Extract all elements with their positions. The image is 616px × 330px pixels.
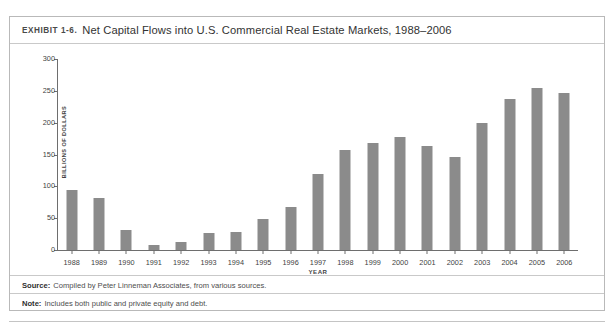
bar-group: 2006: [551, 59, 578, 250]
bar: [531, 88, 542, 250]
x-axis-tick-label: 1994: [228, 258, 244, 267]
y-axis-tick-label: 100: [43, 181, 55, 190]
x-axis-tick-label: 1996: [282, 258, 298, 267]
x-axis-tick-label: 2003: [474, 258, 490, 267]
bar: [121, 230, 132, 250]
exhibit-card: EXHIBIT 1-6. Net Capital Flows into U.S.…: [9, 16, 605, 311]
source-label: Source:: [22, 281, 50, 290]
x-axis-tick-label: 1997: [310, 258, 326, 267]
bar-group: 1999: [359, 59, 386, 250]
x-axis-tick-mark: [181, 250, 182, 254]
x-axis-tick-label: 1990: [118, 258, 134, 267]
x-axis-tick-label: 2000: [392, 258, 408, 267]
y-axis-tick-label: 0: [51, 245, 55, 254]
x-axis-tick-label: 1999: [365, 258, 381, 267]
y-axis-tick-label: 50: [47, 213, 55, 222]
bar: [230, 232, 241, 250]
bar-group: 1995: [250, 59, 277, 250]
bar-group: 2003: [469, 59, 496, 250]
bar: [422, 146, 433, 250]
bar: [395, 137, 406, 250]
bars-layer: 1988198919901991199219931994199519961997…: [58, 59, 578, 250]
bar-group: 2004: [496, 59, 523, 250]
x-axis-tick-label: 1995: [255, 258, 271, 267]
x-axis-tick-mark: [536, 250, 537, 254]
bar-group: 1989: [85, 59, 112, 250]
bar: [504, 99, 515, 250]
x-axis-tick-label: 1993: [200, 258, 216, 267]
bar-group: 2002: [441, 59, 468, 250]
x-axis-tick-label: 2004: [501, 258, 517, 267]
x-axis-tick-mark: [454, 250, 455, 254]
x-axis-tick-label: 2005: [529, 258, 545, 267]
y-axis-tick-label: 300: [43, 54, 55, 63]
y-axis-tick-label: 250: [43, 86, 55, 95]
bar-group: 1993: [195, 59, 222, 250]
x-axis-tick-label: 1992: [173, 258, 189, 267]
x-axis-tick-label: 1989: [91, 258, 107, 267]
bar-group: 2001: [414, 59, 441, 250]
x-axis-tick-mark: [427, 250, 428, 254]
x-axis-tick-label: 1998: [337, 258, 353, 267]
exhibit-number-label: EXHIBIT 1-6.: [22, 26, 77, 35]
source-text: Compiled by Peter Linneman Associates, f…: [53, 281, 266, 290]
note-text: Includes both public and private equity …: [44, 299, 207, 308]
bar-group: 1994: [222, 59, 249, 250]
x-axis-tick-mark: [290, 250, 291, 254]
bar: [176, 242, 187, 250]
bar: [285, 207, 296, 250]
bar-chart: BILLIONS OF DOLLARS 050100150200250300 1…: [10, 43, 604, 275]
bar: [94, 198, 105, 250]
x-axis-tick-label: 1988: [64, 258, 80, 267]
bar-group: 1997: [304, 59, 331, 250]
bar: [340, 150, 351, 250]
x-axis-tick-mark: [71, 250, 72, 254]
bar: [312, 174, 323, 250]
x-axis-tick-mark: [263, 250, 264, 254]
note-label: Note:: [22, 299, 41, 308]
bar-group: 1998: [332, 59, 359, 250]
page-divider: [9, 321, 605, 322]
x-axis-title: YEAR: [58, 268, 578, 275]
source-row: Source: Compiled by Peter Linneman Assoc…: [10, 275, 604, 294]
bar-group: 2000: [386, 59, 413, 250]
bar-group: 1988: [58, 59, 85, 250]
bar: [203, 233, 214, 250]
x-axis-tick-mark: [317, 250, 318, 254]
bar: [367, 143, 378, 250]
bar: [449, 157, 460, 250]
bar-group: 1992: [167, 59, 194, 250]
bar-group: 1996: [277, 59, 304, 250]
bar-group: 1991: [140, 59, 167, 250]
x-axis-tick-mark: [482, 250, 483, 254]
bar-group: 2005: [523, 59, 550, 250]
x-axis-tick-mark: [208, 250, 209, 254]
bar: [477, 123, 488, 250]
x-axis-tick-mark: [153, 250, 154, 254]
exhibit-title-row: EXHIBIT 1-6. Net Capital Flows into U.S.…: [10, 17, 604, 44]
x-axis-tick-mark: [509, 250, 510, 254]
y-axis-tick-label: 150: [43, 150, 55, 159]
note-row: Note: Includes both public and private e…: [10, 293, 604, 312]
bar: [258, 219, 269, 250]
x-axis-tick-label: 2002: [447, 258, 463, 267]
bar-group: 1990: [113, 59, 140, 250]
page-title: Net Capital Flows into U.S. Commercial R…: [82, 24, 451, 36]
x-axis-tick-label: 2006: [556, 258, 572, 267]
x-axis-tick-mark: [372, 250, 373, 254]
x-axis-tick-mark: [564, 250, 565, 254]
x-axis-tick-mark: [235, 250, 236, 254]
y-axis-tick-label: 200: [43, 118, 55, 127]
bar: [66, 190, 77, 250]
x-axis-tick-label: 2001: [419, 258, 435, 267]
x-axis-tick-mark: [345, 250, 346, 254]
x-axis-tick-label: 1991: [146, 258, 162, 267]
x-axis-tick-mark: [400, 250, 401, 254]
x-axis-tick-mark: [99, 250, 100, 254]
x-axis-tick-mark: [126, 250, 127, 254]
bar: [559, 93, 570, 250]
